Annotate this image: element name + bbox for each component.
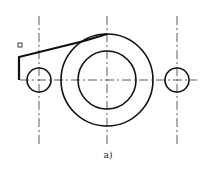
drawing-canvas [0,0,209,174]
section-marker-square [18,43,22,47]
figure-caption: a) [96,150,120,160]
lever-arm-outline [19,34,107,80]
